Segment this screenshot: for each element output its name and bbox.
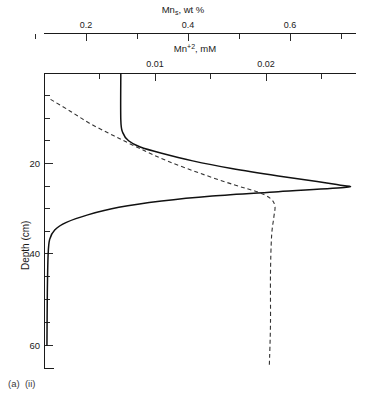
figure-caption-panel: (a) [8,378,20,389]
figure-caption-subpanel: (ii) [25,378,36,389]
series-line-mn-porewater [51,99,276,365]
series-line-mn-solid [47,73,351,346]
figure-caption: (a) (ii) [8,378,35,389]
figure-panel: Mns, wt % 0.2 0.4 0.6 Mn+2, mM 0.01 0.02… [0,0,366,400]
chart-plot-area [0,0,366,400]
